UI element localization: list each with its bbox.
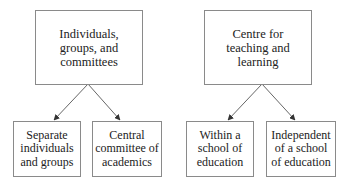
box-separate-individuals-groups: Separate individuals and groups (13, 121, 81, 177)
box-independent-school-education: Independent of a school of education (266, 121, 336, 177)
box-label: Central committee of academics (95, 129, 159, 170)
box-centre-teaching-learning: Centre for teaching and learning (204, 10, 312, 85)
arrow-to-within-school (228, 84, 262, 120)
box-within-school-education: Within a school of education (186, 121, 254, 177)
arrow-to-separate-individuals (54, 84, 88, 120)
box-label: Within a school of education (197, 129, 244, 170)
box-label: Independent of a school of education (271, 129, 331, 170)
arrow-to-central-committee (88, 84, 120, 120)
box-individuals-groups-committees: Individuals, groups, and committees (35, 10, 143, 85)
box-label: Centre for teaching and learning (226, 27, 290, 69)
arrow-left-group (54, 84, 120, 120)
box-label: Separate individuals and groups (20, 129, 73, 170)
box-label: Individuals, groups, and committees (59, 27, 118, 69)
box-central-committee-academics: Central committee of academics (92, 121, 162, 177)
arrow-to-independent-school (262, 84, 295, 120)
arrow-right-group (228, 84, 295, 120)
